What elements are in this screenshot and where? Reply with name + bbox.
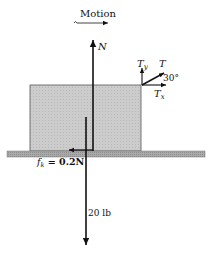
normal-force-label: N bbox=[97, 41, 108, 52]
tension-y-label: Ty bbox=[137, 58, 149, 71]
tension-angle-label: 30° bbox=[163, 73, 179, 83]
tension-group: Ty T 30° Tx bbox=[137, 58, 179, 101]
friction-force-label: fk = 0.2N bbox=[36, 156, 85, 169]
tension-x-label: Tx bbox=[154, 88, 165, 101]
tension-arrow bbox=[142, 73, 164, 85]
motion-indicator: Motion bbox=[74, 8, 116, 23]
tension-label: T bbox=[159, 58, 167, 69]
motion-arrow-icon bbox=[74, 22, 108, 24]
weight-force-label: 20 lb bbox=[88, 208, 111, 218]
motion-label: Motion bbox=[80, 8, 116, 19]
free-body-diagram: Motion N 20 lb fk = 0.2N Ty T 30° Tx bbox=[0, 0, 214, 253]
